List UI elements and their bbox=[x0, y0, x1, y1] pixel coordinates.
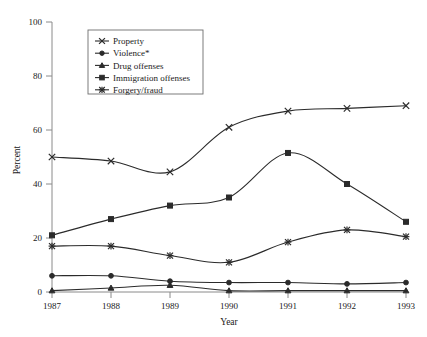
marker-filled-square-2 bbox=[168, 203, 173, 208]
series-immigration-offenses bbox=[50, 150, 409, 237]
marker-filled-square-4 bbox=[286, 150, 291, 155]
x-tick-label: 1988 bbox=[102, 301, 121, 311]
marker-x-cross-3 bbox=[226, 124, 232, 130]
y-tick-label: 80 bbox=[33, 71, 43, 81]
marker-filled-square-3 bbox=[227, 195, 232, 200]
x-tick-label: 1991 bbox=[279, 301, 297, 311]
y-tick-label: 20 bbox=[33, 233, 43, 243]
marker-filled-circle-5 bbox=[345, 282, 350, 287]
marker-asterisk-cross-2 bbox=[167, 252, 174, 259]
marker-asterisk-cross-5 bbox=[344, 227, 351, 234]
series-forgery-fraud bbox=[49, 227, 410, 266]
marker-filled-circle-0 bbox=[50, 273, 55, 278]
y-axis-title: Percent bbox=[12, 145, 22, 174]
x-tick-label: 1990 bbox=[220, 301, 239, 311]
marker-filled-square-0 bbox=[50, 233, 55, 238]
x-axis-title: Year bbox=[220, 317, 238, 327]
marker-filled-circle-1 bbox=[109, 273, 114, 278]
marker-filled-circle-3 bbox=[227, 280, 232, 285]
y-tick-label: 60 bbox=[33, 125, 43, 135]
x-tick-label: 1989 bbox=[161, 301, 180, 311]
series-violence bbox=[50, 273, 409, 286]
y-tick-label: 100 bbox=[29, 17, 43, 27]
marker-filled-circle-6 bbox=[404, 280, 409, 285]
marker-filled-square-6 bbox=[404, 219, 409, 224]
marker-asterisk-cross-0 bbox=[49, 243, 56, 250]
series-group bbox=[49, 103, 410, 293]
marker-asterisk-cross-1 bbox=[108, 243, 115, 250]
x-tick-label: 1987 bbox=[43, 301, 62, 311]
legend-label: Drug offenses bbox=[113, 61, 164, 71]
marker-asterisk-cross-6 bbox=[403, 233, 410, 240]
legend-label: Property bbox=[113, 36, 144, 46]
marker-filled-circle-4 bbox=[286, 280, 291, 285]
legend-label: Violence* bbox=[113, 48, 150, 58]
legend-label: Immigration offenses bbox=[113, 73, 191, 83]
marker-asterisk-cross-3 bbox=[226, 259, 233, 266]
marker-legend-4 bbox=[99, 87, 105, 93]
series-line bbox=[52, 230, 406, 263]
series-property bbox=[49, 103, 409, 176]
y-tick-label: 0 bbox=[38, 287, 43, 297]
y-tick-label: 40 bbox=[33, 179, 43, 189]
chart-container: 020406080100 198719881989199019911992199… bbox=[0, 0, 427, 337]
chart-legend: PropertyViolence*Drug offensesImmigratio… bbox=[88, 30, 203, 95]
x-tick-label: 1992 bbox=[338, 301, 356, 311]
line-chart-plot: 020406080100 198719881989199019911992199… bbox=[0, 0, 427, 337]
marker-filled-square-5 bbox=[345, 182, 350, 187]
series-line bbox=[52, 106, 406, 173]
marker-legend-3 bbox=[100, 75, 105, 80]
marker-filled-square-1 bbox=[109, 217, 114, 222]
legend-label: Forgery/fraud bbox=[113, 85, 163, 95]
y-tick-group: 020406080100 bbox=[29, 17, 53, 297]
marker-legend-1 bbox=[100, 51, 104, 55]
x-tick-label: 1993 bbox=[397, 301, 416, 311]
series-line bbox=[52, 153, 406, 236]
x-tick-group: 1987198819891990199119921993 bbox=[43, 292, 416, 311]
marker-asterisk-cross-4 bbox=[285, 239, 292, 246]
